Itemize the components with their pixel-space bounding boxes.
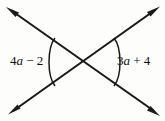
right-angle-label-text: 3a + 4 [117,53,150,68]
left-angle-label: 4a − 2 [10,54,43,67]
vertical-angles-diagram: 4a − 2 3a + 4 [0,0,165,121]
arrowhead-bottom-left [8,105,21,115]
right-angle-label: 3a + 4 [117,54,150,67]
left-angle-arc [49,38,55,86]
left-angle-label-text: 4a − 2 [10,53,43,68]
